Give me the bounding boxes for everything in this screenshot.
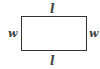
width-label-right: w	[89, 28, 98, 40]
length-label-top: l	[50, 3, 55, 15]
width-label-left: w	[8, 28, 17, 40]
length-label-bottom: l	[50, 55, 55, 67]
rectangle	[21, 16, 87, 51]
